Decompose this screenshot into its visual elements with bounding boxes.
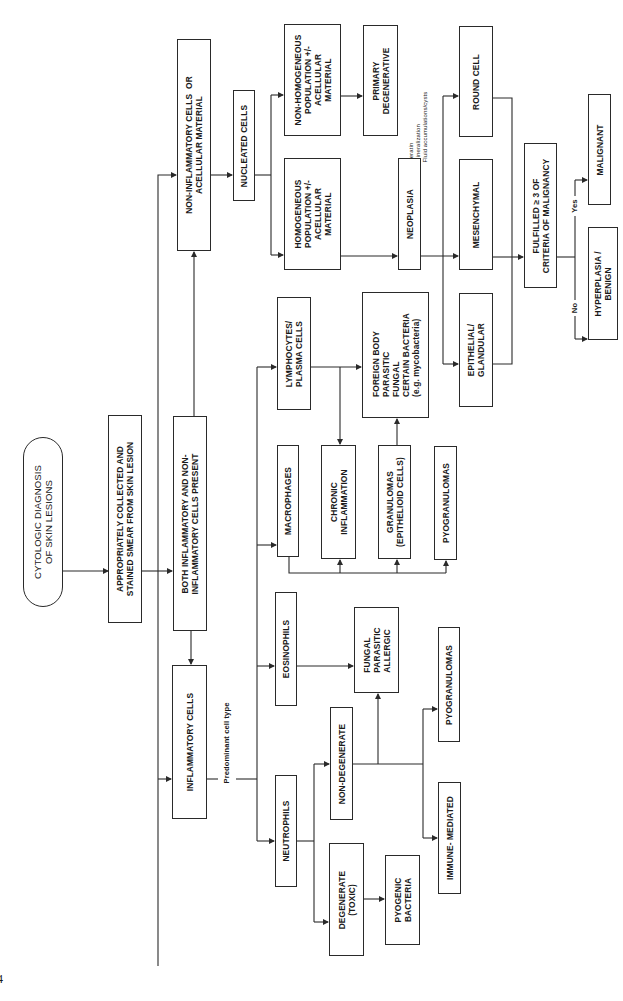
start-node: CYTOLOGIC DIAGNOSIS OF SKIN LESIONS bbox=[23, 437, 63, 607]
no-label: No bbox=[570, 303, 580, 313]
chronic-inflammation-node: CHRONIC INFLAMMATION bbox=[321, 445, 356, 559]
foreign-body-node: FOREIGN BODY PARASITIC FUNGAL CERTAIN BA… bbox=[362, 292, 429, 418]
pyogenic-bacteria-node: PYOGENIC BACTERIA bbox=[385, 855, 420, 945]
nucleated-cells-label: NUCLEATED CELLS bbox=[239, 104, 249, 186]
immune-mediated-label: IMMUNE- MEDIATED bbox=[445, 796, 455, 880]
pyogranulomas-neutrophil-node: PYOGRANULOMAS bbox=[438, 627, 460, 742]
non-homogeneous-label: NON-HOMOGENEOUS POPULATION +/- ACELLULAR… bbox=[293, 35, 333, 126]
homogeneous-node: HOMOGENEOUS POPULATION +/- ACELLULAR MAT… bbox=[284, 158, 341, 270]
hyperplasia-benign-label: HYPERPLASIA / BENIGN bbox=[593, 251, 613, 316]
degenerate-toxic-label: DEGENERATE (TOXIC) bbox=[337, 870, 357, 929]
both-cells-node: BOTH INFLAMMATORY AND NON- INFLAMMATORY … bbox=[173, 416, 207, 631]
mesenchymal-label: MESENCHYMAL bbox=[471, 181, 481, 248]
primary-degenerative-note-text: Keratin Mineralization Fluid accumulatio… bbox=[408, 92, 429, 163]
neutrophils-node: NEUTROPHILS bbox=[275, 775, 297, 887]
non-inflammatory-node: NON-INFLAMMATORY CELLS OR ACELLULAR MATE… bbox=[177, 39, 211, 251]
malignant-node: MALIGNANT bbox=[588, 94, 611, 205]
round-cell-label: ROUND CELL bbox=[471, 54, 481, 110]
mesenchymal-node: MESENCHYMAL bbox=[459, 159, 493, 270]
macrophages-label: MACROPHAGES bbox=[283, 467, 293, 535]
lymphocytes-plasma-node: LYMPHOCYTES/ PLASMA CELLS bbox=[277, 297, 311, 410]
epithelial-glandular-node: EPITHELIAL/ GLANDULAR bbox=[459, 293, 493, 407]
nucleated-cells-node: NUCLEATED CELLS bbox=[233, 90, 255, 201]
macrophages-node: MACROPHAGES bbox=[277, 445, 299, 557]
yes-label-box: Yes bbox=[569, 196, 581, 216]
predominant-cell-type-label-box: Predominant cell type bbox=[219, 690, 235, 796]
granulomas-label: GRANULOMAS (EPITHELIOID CELLS) bbox=[385, 457, 405, 547]
non-degenerate-node: NON-DEGENERATE bbox=[330, 707, 353, 820]
page-number: 4 bbox=[0, 972, 3, 987]
primary-degenerative-note: Keratin Mineralization Fluid accumulatio… bbox=[403, 92, 433, 162]
lymphocytes-plasma-label: LYMPHOCYTES/ PLASMA CELLS bbox=[284, 320, 304, 387]
eosinophils-label: EOSINOPHILS bbox=[281, 620, 291, 678]
degenerate-toxic-node: DEGENERATE (TOXIC) bbox=[329, 843, 364, 956]
neutrophils-label: NEUTROPHILS bbox=[281, 800, 291, 861]
predominant-cell-type-label: Predominant cell type bbox=[222, 702, 232, 783]
malignant-label: MALIGNANT bbox=[595, 124, 605, 175]
neoplasia-node: NEOPLASIA bbox=[398, 158, 421, 270]
non-degenerate-label: NON-DEGENERATE bbox=[337, 723, 347, 803]
chronic-inflammation-label: CHRONIC INFLAMMATION bbox=[329, 469, 349, 534]
granulomas-node: GRANULOMAS (EPITHELIOID CELLS) bbox=[378, 445, 411, 559]
criteria-of-malignancy-label: FULFILLED ≥ 3 OF CRITERIA OF MALIGNANCY bbox=[531, 158, 551, 272]
smear-node-label: APPROPRIATELY COLLECTED AND STAINED SMEA… bbox=[115, 442, 135, 597]
round-cell-node: ROUND CELL bbox=[459, 26, 493, 137]
foreign-body-label: FOREIGN BODY PARASITIC FUNGAL CERTAIN BA… bbox=[371, 313, 421, 397]
fungal-parasitic-allergic-label: FUNGAL PARASITIC ALLERGIC bbox=[362, 627, 392, 672]
no-label-box: No bbox=[569, 300, 581, 316]
criteria-of-malignancy-node: FULFILLED ≥ 3 OF CRITERIA OF MALIGNANCY bbox=[524, 143, 557, 288]
pyogenic-bacteria-label: PYOGENIC BACTERIA bbox=[393, 877, 413, 922]
yes-label: Yes bbox=[570, 199, 580, 212]
neoplasia-label: NEOPLASIA bbox=[405, 189, 415, 239]
inflammatory-cells-label: INFLAMMATORY CELLS bbox=[185, 693, 195, 791]
primary-degenerative-node: PRIMARY DEGENERATIVE bbox=[363, 25, 398, 136]
primary-degenerative-label: PRIMARY DEGENERATIVE bbox=[371, 47, 391, 114]
both-cells-label: BOTH INFLAMMATORY AND NON- INFLAMMATORY … bbox=[180, 453, 200, 594]
fungal-parasitic-allergic-node: FUNGAL PARASITIC ALLERGIC bbox=[354, 607, 399, 693]
eosinophils-node: EOSINOPHILS bbox=[275, 592, 297, 706]
non-inflammatory-label: NON-INFLAMMATORY CELLS OR ACELLULAR MATE… bbox=[184, 76, 204, 214]
hyperplasia-benign-node: HYPERPLASIA / BENIGN bbox=[588, 227, 618, 340]
non-homogeneous-node: NON-HOMOGENEOUS POPULATION +/- ACELLULAR… bbox=[284, 24, 341, 136]
flowchart-canvas: CYTOLOGIC DIAGNOSIS OF SKIN LESIONS APPR… bbox=[0, 0, 623, 1001]
epithelial-glandular-label: EPITHELIAL/ GLANDULAR bbox=[466, 323, 486, 377]
homogeneous-label: HOMOGENEOUS POPULATION +/- ACELLULAR MAT… bbox=[293, 179, 333, 248]
immune-mediated-node: IMMUNE- MEDIATED bbox=[438, 782, 461, 894]
inflammatory-cells-node: INFLAMMATORY CELLS bbox=[172, 665, 207, 819]
pyogranulomas-macrophage-label: PYOGRANULOMAS bbox=[441, 463, 451, 543]
smear-node: APPROPRIATELY COLLECTED AND STAINED SMEA… bbox=[108, 415, 142, 623]
pyogranulomas-neutrophil-label: PYOGRANULOMAS bbox=[444, 645, 454, 725]
start-node-label: CYTOLOGIC DIAGNOSIS OF SKIN LESIONS bbox=[32, 465, 54, 579]
pyogranulomas-macrophage-node: PYOGRANULOMAS bbox=[434, 446, 457, 560]
